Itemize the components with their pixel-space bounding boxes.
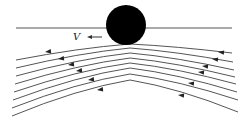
ball [106, 5, 146, 45]
arrowhead-icon [198, 70, 204, 74]
arrowhead-icon [178, 93, 184, 97]
streamline [12, 80, 238, 116]
arrowhead-icon [45, 49, 51, 53]
velocity-label: V [73, 31, 82, 42]
diagram-container: V [0, 0, 251, 130]
arrowhead-icon [97, 87, 103, 91]
arrowhead-icon [202, 64, 208, 68]
velocity-arrowhead-icon [87, 35, 92, 39]
arrowhead-icon [76, 68, 82, 72]
streamlines [12, 44, 238, 116]
arrowhead-icon [88, 77, 94, 81]
streamline-diagram: V [0, 0, 251, 130]
